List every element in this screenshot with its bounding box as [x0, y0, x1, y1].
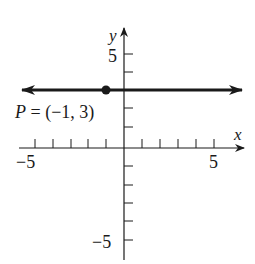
point-p-coords: = (−1, 3)	[26, 102, 94, 123]
point-p-name: P	[14, 102, 26, 122]
coordinate-plane: y x 5 −5 −5 5 P = (−1, 3)	[0, 0, 255, 264]
x-axis-label: x	[233, 125, 242, 144]
y-axis-label: y	[107, 26, 117, 45]
x-tick-label-neg5: −5	[16, 152, 35, 172]
point-p	[102, 86, 111, 95]
y-ticks	[124, 54, 133, 240]
y-tick-label-5: 5	[108, 46, 117, 66]
x-tick-label-5: 5	[209, 152, 218, 172]
y-tick-label-neg5: −5	[92, 232, 111, 252]
point-p-label: P = (−1, 3)	[14, 102, 94, 123]
